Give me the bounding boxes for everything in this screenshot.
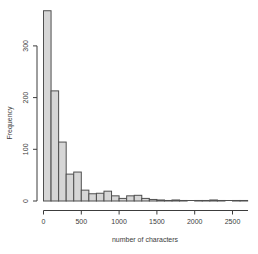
histogram-bar	[66, 174, 74, 201]
histogram-bar	[59, 142, 67, 201]
histogram-bar	[180, 200, 188, 201]
histogram-bar	[134, 195, 142, 201]
histogram-bar	[44, 11, 52, 201]
histogram-bar	[51, 91, 59, 201]
histogram-bar	[233, 200, 241, 201]
y-tick-label: 300	[22, 40, 29, 52]
histogram-bar	[164, 200, 172, 201]
x-tick-label: 2500	[225, 218, 241, 225]
bars-group	[44, 11, 248, 201]
histogram-bar	[157, 200, 165, 201]
x-tick-label: 1500	[149, 218, 165, 225]
histogram-bar	[210, 200, 218, 201]
histogram-bar	[127, 196, 135, 201]
y-tick-label: 100	[22, 143, 29, 155]
histogram-bar	[104, 191, 112, 201]
plot-canvas: 010020030005001000150020002500 number of…	[0, 0, 258, 254]
x-tick-label: 500	[75, 218, 87, 225]
histogram-chart: 010020030005001000150020002500 number of…	[0, 0, 258, 254]
histogram-bar	[172, 200, 180, 201]
histogram-bar	[240, 200, 248, 201]
x-tick-label: 1000	[111, 218, 127, 225]
histogram-bar	[96, 193, 104, 201]
histogram-bar	[217, 200, 225, 201]
histogram-bar	[119, 198, 127, 201]
histogram-bar	[149, 199, 157, 201]
histogram-bar	[202, 200, 210, 201]
histogram-bar	[81, 190, 89, 201]
x-tick-label: 2000	[187, 218, 203, 225]
y-tick-label: 200	[22, 92, 29, 104]
histogram-bar	[142, 198, 150, 201]
histogram-bar	[112, 196, 120, 201]
y-tick-label: 0	[22, 199, 29, 203]
histogram-bar	[195, 200, 203, 201]
histogram-bar	[89, 194, 97, 201]
x-axis-title: number of characters	[112, 236, 179, 243]
y-axis-title: Frequency	[6, 106, 14, 140]
x-tick-label: 0	[42, 218, 46, 225]
histogram-bar	[74, 172, 82, 201]
